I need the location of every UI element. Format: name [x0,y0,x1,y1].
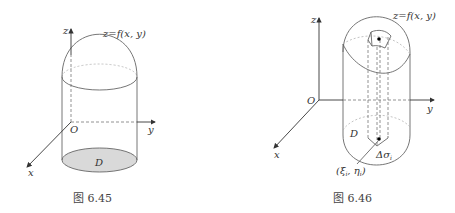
top-ellipse-front [62,77,137,90]
surface-label: z=f(x, y) [392,10,436,21]
y-axis-label: y [426,103,433,114]
region-label: D [94,157,103,168]
x-axis-label: x [274,149,280,160]
z-axis-label: z [310,14,317,25]
patch-label: Δσi [375,149,392,161]
x-axis [274,100,319,148]
surface-front-edge [343,44,410,73]
figure-caption: 图 6.45 [73,192,112,205]
top-ellipse-back [62,64,137,77]
origin-label: O [70,124,78,135]
figure-6-46: z y x O z=f(x, y) D Δσi (ξi, ηi) 图 6.46 [274,10,436,205]
dome-surface [62,34,137,77]
figure-caption: 图 6.46 [333,192,372,205]
surface-back-edge [343,36,410,54]
surface-point [377,37,381,41]
figure-6-45: z y x O z=f(x, y) D 图 6.45 [27,25,155,205]
surface-label: z=f(x, y) [102,28,146,39]
y-axis-label: y [147,124,154,135]
dome-outline [343,17,410,52]
region-label: D [349,128,358,139]
point-label: (ξi, ηi) [336,165,366,177]
x-axis-label: x [28,167,34,178]
figure-canvas: z y x O z=f(x, y) D 图 6.45 [0,0,455,213]
z-axis-label: z [62,25,69,36]
origin-label: O [307,95,315,106]
